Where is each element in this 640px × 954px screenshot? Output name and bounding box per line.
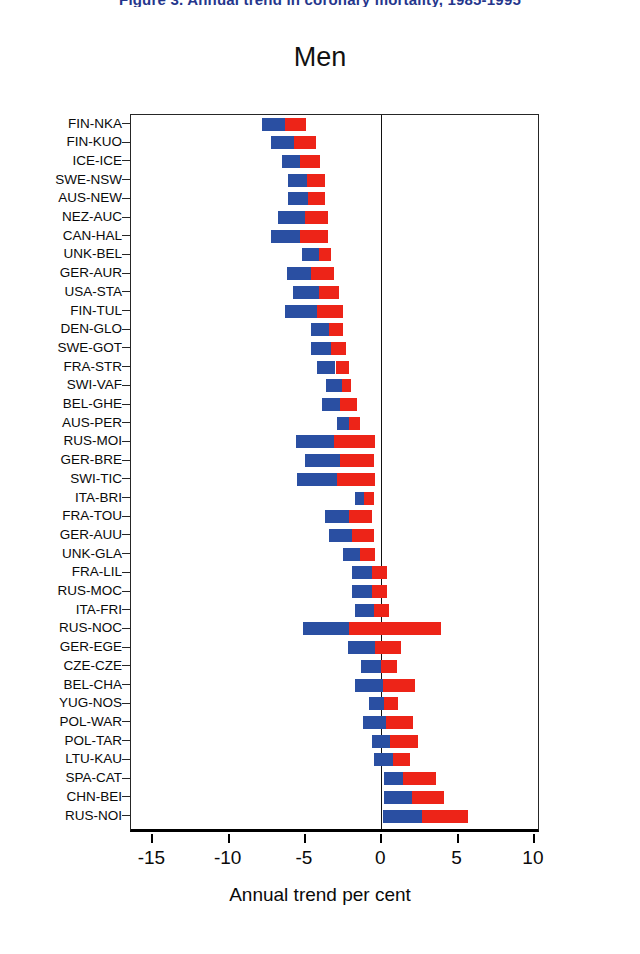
y-axis-tick [122,291,130,292]
y-axis-tick [122,684,130,685]
bar-row [131,379,538,392]
bar-row [131,248,538,261]
chart-figure: Figure 3. Annual trend in coronary morta… [0,0,640,954]
bar-row [131,305,538,318]
plot-area [130,114,539,832]
bar-segment-red [311,267,334,280]
bar-segment-red [307,174,325,187]
bar-row [131,192,538,205]
bar-segment-blue [369,697,384,710]
y-axis-tick [122,572,130,573]
bar-segment-red [340,398,357,411]
bar-segment-red [375,641,401,654]
bar-row [131,622,538,635]
bar-row [131,136,538,149]
bar-segment-blue [285,305,317,318]
x-axis-tick-label: 10 [503,847,563,869]
bar-segment-red [372,566,387,579]
x-axis-tick [380,834,382,843]
bar-segment-blue [337,417,349,430]
bar-row [131,211,538,224]
x-axis-tick [228,834,230,843]
bar-row [131,174,538,187]
bar-row [131,230,538,243]
y-axis-tick [122,217,130,218]
y-axis-tick [122,553,130,554]
bar-row [131,566,538,579]
bar-row [131,772,538,785]
bar-segment-red [336,361,350,374]
bar-segment-blue [297,473,337,486]
bar-segment-red [305,211,328,224]
bar-segment-blue [355,679,382,692]
y-axis-label-usa-sta: USA-STA [64,285,122,298]
bar-segment-blue [302,248,319,261]
y-axis-label-ger-auu: GER-AUU [60,528,122,541]
y-axis-tick [122,273,130,274]
bar-row [131,716,538,729]
x-axis-tick-label: -5 [274,847,334,869]
bar-segment-red [349,510,372,523]
bar-row [131,791,538,804]
bar-segment-red [319,248,331,261]
y-axis-label-fin-tul: FIN-TUL [70,304,122,317]
x-axis-tick [304,834,306,843]
figure-caption: Figure 3. Annual trend in coronary morta… [0,0,640,7]
y-axis-label-chn-bei: CHN-BEI [66,790,122,803]
bar-segment-red [412,791,444,804]
bar-segment-red [294,136,315,149]
x-axis-tick [457,834,459,843]
bar-row [131,604,538,617]
bar-segment-blue [317,361,335,374]
y-axis-tick [122,534,130,535]
y-axis-tick [122,235,130,236]
bar-segment-red [384,697,398,710]
bar-segment-red [300,230,327,243]
y-axis-label-unk-bel: UNK-BEL [63,247,122,260]
y-axis-tick [122,665,130,666]
bar-segment-blue [352,585,372,598]
y-axis-tick [122,815,130,816]
y-axis-tick [122,628,130,629]
bar-segment-blue [262,118,285,131]
y-axis-tick [122,123,130,124]
bar-segment-red [329,323,343,336]
bar-row [131,398,538,411]
y-axis-tick [122,329,130,330]
bar-segment-blue [355,492,364,505]
y-axis-label-bel-ghe: BEL-GHE [63,397,122,410]
bar-segment-blue [288,174,306,187]
bar-segment-blue [311,342,331,355]
y-axis-tick [122,591,130,592]
bar-segment-red [374,604,389,617]
bar-row [131,361,538,374]
bar-row [131,548,538,561]
y-axis-label-ita-bri: ITA-BRI [75,491,122,504]
y-axis-tick [122,385,130,386]
y-axis-tick [122,422,130,423]
y-axis-label-ger-ege: GER-EGE [60,640,122,653]
bar-segment-red [403,772,437,785]
y-axis-label-ger-aur: GER-AUR [60,266,122,279]
y-axis-label-fra-tou: FRA-TOU [62,509,122,522]
bar-segment-blue [372,735,390,748]
bar-row [131,417,538,430]
y-axis-label-yug-nos: YUG-NOS [59,696,122,709]
bar-segment-red [337,473,375,486]
bar-row [131,529,538,542]
bar-segment-red [317,305,343,318]
chart-title: Men [0,42,640,73]
bar-row [131,435,538,448]
bar-segment-red [360,548,375,561]
y-axis-label-rus-noi: RUS-NOI [65,809,122,822]
bar-segment-red [349,622,441,635]
y-axis-tick [122,478,130,479]
bar-segment-blue [303,622,349,635]
bar-row [131,810,538,823]
x-axis-tick-label: 0 [350,847,410,869]
y-axis-label-den-glo: DEN-GLO [60,322,122,335]
y-axis-tick [122,609,130,610]
bar-segment-blue [296,435,334,448]
bar-row [131,492,538,505]
bar-row [131,323,538,336]
